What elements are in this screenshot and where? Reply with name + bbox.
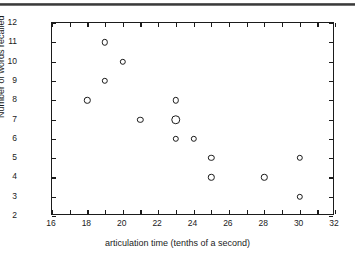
x-tick-mark-top <box>70 23 71 27</box>
x-tick-mark-top <box>176 23 177 27</box>
x-tick-mark <box>300 210 301 214</box>
y-tick-mark-right <box>329 216 333 217</box>
y-tick-mark <box>52 197 56 198</box>
data-point <box>296 193 302 199</box>
page-top-rule <box>0 3 355 6</box>
x-tick-label: 24 <box>188 219 197 228</box>
y-tick-label: 12 <box>8 18 17 27</box>
y-tick-mark <box>52 100 56 101</box>
y-tick-mark-right <box>329 120 333 121</box>
x-tick-mark <box>158 210 159 214</box>
x-tick-mark-top <box>317 23 318 27</box>
y-tick-label: 2 <box>12 211 17 220</box>
x-tick-mark-top <box>123 23 124 27</box>
x-tick-mark <box>176 210 177 214</box>
x-tick-mark-top <box>158 23 159 27</box>
y-tick-mark <box>52 42 56 43</box>
x-tick-label: 20 <box>117 219 126 228</box>
data-point <box>84 97 90 103</box>
data-point <box>171 115 181 125</box>
y-tick-mark <box>52 216 56 217</box>
x-tick-label: 26 <box>223 219 232 228</box>
x-tick-label: 18 <box>82 219 91 228</box>
y-tick-mark <box>52 81 56 82</box>
x-tick-label: 32 <box>329 219 338 228</box>
y-tick-mark <box>52 177 56 178</box>
y-tick-mark-right <box>329 139 333 140</box>
y-tick-label: 8 <box>12 95 17 104</box>
x-tick-mark-top <box>335 23 336 27</box>
y-axis-title: Number of words recalled <box>0 15 6 118</box>
x-tick-mark <box>247 210 248 214</box>
x-tick-mark <box>317 210 318 214</box>
data-point <box>208 155 214 161</box>
y-tick-label: 11 <box>8 37 17 46</box>
x-tick-mark-top <box>264 23 265 27</box>
y-tick-label: 5 <box>12 153 17 162</box>
scatter-plot-figure: Number of words recalled articulation ti… <box>0 0 355 261</box>
x-axis-title: articulation time (tenths of a second) <box>0 238 355 248</box>
x-tick-mark-top <box>87 23 88 27</box>
y-tick-mark-right <box>329 177 333 178</box>
x-tick-mark <box>264 210 265 214</box>
x-tick-mark <box>229 210 230 214</box>
data-point <box>102 39 108 45</box>
data-point <box>208 174 214 180</box>
data-point <box>173 97 179 103</box>
x-tick-mark <box>335 210 336 214</box>
y-tick-label: 7 <box>12 114 17 123</box>
data-point <box>261 174 267 180</box>
y-tick-mark-right <box>329 158 333 159</box>
y-tick-mark-right <box>329 42 333 43</box>
x-tick-mark <box>211 210 212 214</box>
x-tick-mark-top <box>52 23 53 27</box>
x-tick-mark-top <box>229 23 230 27</box>
data-point <box>190 136 196 142</box>
x-tick-mark-top <box>282 23 283 27</box>
y-tick-mark <box>52 139 56 140</box>
x-tick-mark <box>105 210 106 214</box>
x-tick-label: 22 <box>152 219 161 228</box>
y-tick-label: 9 <box>12 76 17 85</box>
y-tick-label: 10 <box>8 56 17 65</box>
y-tick-mark-right <box>329 23 333 24</box>
x-tick-mark <box>70 210 71 214</box>
y-tick-label: 6 <box>12 134 17 143</box>
x-tick-mark-top <box>211 23 212 27</box>
x-tick-mark <box>123 210 124 214</box>
data-point <box>120 58 126 64</box>
y-tick-mark-right <box>329 81 333 82</box>
x-tick-label: 30 <box>294 219 303 228</box>
x-tick-mark <box>52 210 53 214</box>
x-tick-mark <box>140 210 141 214</box>
x-tick-mark-top <box>247 23 248 27</box>
y-tick-mark <box>52 62 56 63</box>
y-tick-mark <box>52 120 56 121</box>
x-tick-mark <box>194 210 195 214</box>
y-tick-mark <box>52 158 56 159</box>
y-tick-mark-right <box>329 62 333 63</box>
data-point <box>173 136 179 142</box>
data-point <box>296 155 302 161</box>
y-tick-mark-right <box>329 197 333 198</box>
x-tick-mark-top <box>105 23 106 27</box>
x-tick-mark-top <box>140 23 141 27</box>
data-point <box>102 78 108 84</box>
x-tick-mark <box>87 210 88 214</box>
x-tick-mark-top <box>194 23 195 27</box>
y-tick-label: 3 <box>12 191 17 200</box>
plot-area <box>51 22 334 215</box>
y-tick-label: 4 <box>12 172 17 181</box>
x-tick-label: 28 <box>259 219 268 228</box>
data-point <box>137 116 143 122</box>
x-tick-mark-top <box>300 23 301 27</box>
y-tick-mark-right <box>329 100 333 101</box>
x-tick-mark <box>282 210 283 214</box>
x-tick-label: 16 <box>46 219 55 228</box>
